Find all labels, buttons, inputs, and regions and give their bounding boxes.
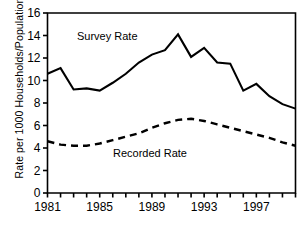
y-axis-tick-labels: 0246810121416 xyxy=(27,6,41,200)
y-tick-label: 12 xyxy=(27,51,41,65)
x-tick-label: 1997 xyxy=(243,200,270,214)
y-tick-label: 4 xyxy=(34,141,41,155)
y-tick-label: 16 xyxy=(27,6,41,20)
x-tick-label: 1989 xyxy=(139,200,166,214)
line-chart-plot: 0246810121416 19811985198919931997 Surve… xyxy=(0,0,305,226)
y-tick-label: 8 xyxy=(34,96,41,110)
y-tick-label: 10 xyxy=(27,74,41,88)
x-axis-tick-labels: 19811985198919931997 xyxy=(34,200,270,214)
y-tick-label: 2 xyxy=(34,164,41,178)
series-line-survey-rate xyxy=(48,34,296,108)
series-label-recorded-rate: Recorded Rate xyxy=(113,147,187,159)
series-line-recorded-rate xyxy=(48,119,296,146)
x-tick-label: 1981 xyxy=(34,200,61,214)
x-tick-label: 1993 xyxy=(191,200,218,214)
series-label-survey-rate: Survey Rate xyxy=(77,30,138,42)
x-tick-label: 1985 xyxy=(86,200,113,214)
y-tick-label: 6 xyxy=(34,119,41,133)
y-tick-label: 0 xyxy=(34,186,41,200)
y-tick-label: 14 xyxy=(27,29,41,43)
chart-figure: Rate per 1000 Households/Population 0246… xyxy=(0,0,305,226)
